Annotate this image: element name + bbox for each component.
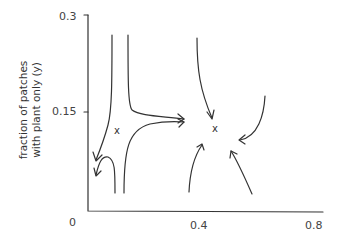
trajectory-into-node-bottom-right (231, 151, 252, 194)
trajectory-into-node-top (197, 38, 212, 118)
trajectory-bottom-right (124, 122, 184, 193)
trajectory-loop (96, 157, 115, 193)
trajectory-into-node-right (240, 96, 265, 140)
trajectory-into-node-bottom-left (189, 145, 202, 192)
axes-lines (88, 15, 323, 212)
phase-plane (0, 0, 340, 249)
trajectory-top-right (128, 35, 184, 119)
trajectory-left-down (96, 35, 112, 160)
